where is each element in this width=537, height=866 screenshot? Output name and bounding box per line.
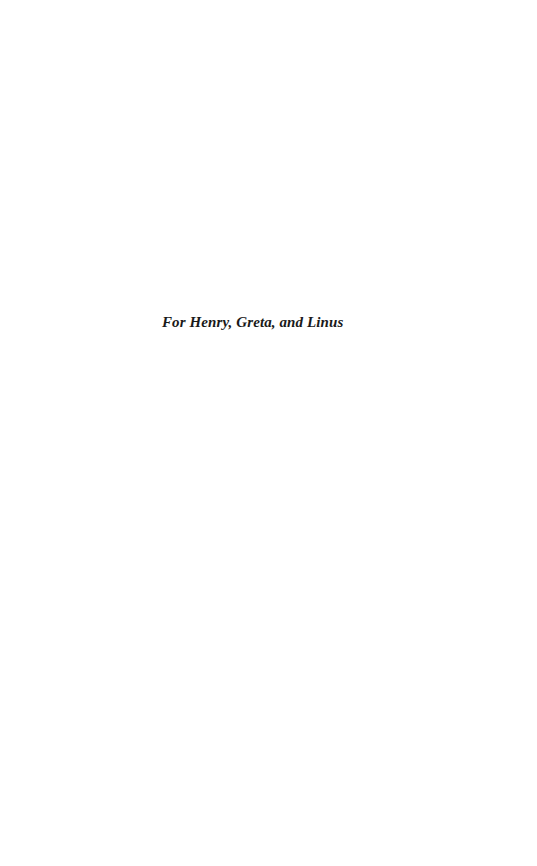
dedication-text: For Henry, Greta, and Linus xyxy=(162,313,343,331)
book-page: For Henry, Greta, and Linus xyxy=(0,0,537,866)
